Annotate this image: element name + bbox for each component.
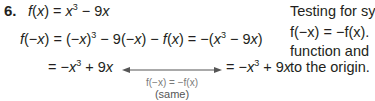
side-text-line-1: Testing for sy xyxy=(290,3,375,19)
same-label: (same) xyxy=(122,88,222,100)
side-text-line-2: f(−x) = −f(x). xyxy=(290,24,369,40)
side-text-line-4: to the origin. xyxy=(290,59,370,75)
function-definition: f(x) = x3 − 9x xyxy=(28,3,110,19)
problem-number: 6. xyxy=(4,2,17,19)
simplified-right: = −x3 + 9x xyxy=(226,59,291,75)
relation-annotation: f(−x) = −f(x) xyxy=(122,77,222,88)
double-arrow-icon xyxy=(122,66,222,74)
substitution-line: f(−x) = (−x)3 − 9(−x) − f(x) = −(x3 − 9x… xyxy=(20,31,263,47)
side-text-line-3: function and xyxy=(290,43,369,59)
simplified-left: = −x3 + 9x xyxy=(48,59,113,75)
